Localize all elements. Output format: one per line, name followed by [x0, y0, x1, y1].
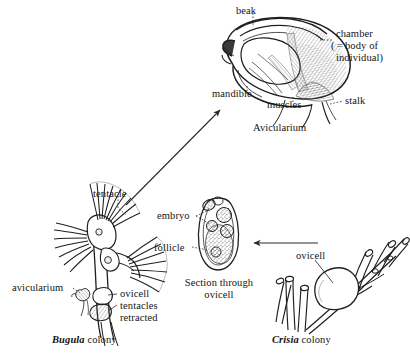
label-tentacle: tentacle [93, 188, 126, 200]
ovicell-section-drawing [198, 197, 238, 270]
label-chamber-line1: chamber [336, 28, 373, 40]
label-ovicell-bugula: ovicell [120, 288, 149, 300]
arrow-bugula-to-avicularium [126, 110, 220, 205]
caption-crisia-colony: Crisia colony [272, 334, 331, 346]
label-follicle: follicle [154, 242, 185, 254]
label-tentacles-retracted-2: retracted [120, 312, 158, 324]
label-embryo: embryo [157, 210, 190, 222]
caption-bugula-genus: Bugula [52, 334, 85, 345]
label-ovicell-crisia: ovicell [296, 250, 325, 262]
label-mandible: mandible [212, 88, 252, 100]
avicularium-drawing [222, 17, 350, 128]
label-beak: beak [236, 5, 256, 17]
caption-bugula-colony: Bugula colony [52, 334, 117, 346]
label-tentacles-retracted-1: tentacles [120, 300, 158, 312]
label-avicularium-bugula: avicularium [12, 282, 63, 294]
caption-section-line1: Section through [169, 277, 269, 289]
label-chamber-line2: ( = body of [331, 40, 378, 52]
label-chamber-line3: individual) [336, 52, 383, 64]
caption-section-line2: ovicell [169, 289, 269, 301]
label-muscles: muscles [267, 99, 302, 111]
caption-crisia-genus: Crisia [272, 334, 299, 345]
caption-crisia-rest: colony [299, 334, 331, 345]
label-stalk: stalk [345, 95, 365, 107]
caption-bugula-rest: colony [85, 334, 117, 345]
caption-avicularium: Avicularium [253, 122, 306, 134]
